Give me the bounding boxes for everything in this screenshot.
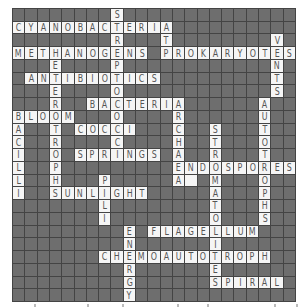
answer-cell[interactable]: E	[50, 85, 61, 97]
answer-cell[interactable]: I	[210, 238, 221, 250]
answer-cell[interactable]: I	[234, 277, 245, 289]
answer-cell[interactable]: S	[210, 277, 221, 289]
answer-cell[interactable]: E	[198, 226, 209, 238]
answer-cell[interactable]: A	[87, 22, 98, 34]
answer-cell[interactable]: O	[62, 22, 73, 34]
answer-cell[interactable]: N	[50, 22, 61, 34]
answer-cell[interactable]: C	[99, 124, 110, 136]
answer-cell[interactable]: R	[173, 111, 184, 123]
answer-cell[interactable]: I	[161, 98, 172, 110]
answer-cell[interactable]: O	[87, 124, 98, 136]
answer-cell[interactable]: I	[148, 22, 159, 34]
answer-cell[interactable]: L	[161, 226, 172, 238]
answer-cell[interactable]: N	[271, 60, 282, 72]
answer-cell[interactable]: T	[210, 136, 221, 148]
answer-cell[interactable]: B	[75, 22, 86, 34]
answer-cell[interactable]: C	[173, 124, 184, 136]
answer-cell[interactable]: U	[259, 111, 270, 123]
answer-cell[interactable]: C	[111, 136, 122, 148]
answer-cell[interactable]: I	[87, 73, 98, 85]
answer-cell[interactable]: P	[247, 251, 258, 263]
answer-cell[interactable]: E	[271, 162, 282, 174]
answer-cell[interactable]: R	[136, 22, 147, 34]
answer-cell[interactable]: E	[124, 251, 135, 263]
answer-cell[interactable]: I	[99, 213, 110, 225]
answer-cell[interactable]: I	[124, 73, 135, 85]
answer-cell[interactable]: O	[210, 162, 221, 174]
answer-cell[interactable]: A	[210, 47, 221, 59]
answer-cell[interactable]: S	[75, 149, 86, 161]
answer-cell[interactable]: P	[99, 175, 110, 187]
answer-cell[interactable]: O	[247, 47, 258, 59]
answer-cell[interactable]: T	[271, 73, 282, 85]
answer-cell[interactable]: E	[136, 98, 147, 110]
answer-cell[interactable]: A	[173, 98, 184, 110]
answer-cell[interactable]: A	[38, 22, 49, 34]
answer-cell[interactable]: O	[87, 47, 98, 59]
answer-cell[interactable]: E	[210, 264, 221, 276]
answer-cell[interactable]: G	[99, 47, 110, 59]
answer-cell[interactable]: M	[247, 226, 258, 238]
answer-cell[interactable]: L	[13, 162, 24, 174]
answer-cell[interactable]: H	[124, 187, 135, 199]
answer-cell[interactable]: P	[259, 187, 270, 199]
answer-cell[interactable]: T	[111, 73, 122, 85]
answer-cell[interactable]: B	[13, 111, 24, 123]
answer-cell[interactable]: L	[13, 175, 24, 187]
answer-cell[interactable]: L	[25, 111, 36, 123]
answer-cell[interactable]: T	[111, 22, 122, 34]
answer-cell[interactable]: E	[124, 226, 135, 238]
answer-cell[interactable]: T	[50, 73, 61, 85]
answer-cell[interactable]: A	[173, 226, 184, 238]
answer-cell[interactable]: R	[247, 277, 258, 289]
answer-cell[interactable]: D	[198, 162, 209, 174]
answer-cell[interactable]: O	[210, 213, 221, 225]
answer-cell[interactable]: L	[222, 226, 233, 238]
answer-cell[interactable]: O	[99, 73, 110, 85]
answer-cell[interactable]: N	[75, 47, 86, 59]
answer-cell[interactable]: N	[124, 149, 135, 161]
answer-cell[interactable]: R	[210, 149, 221, 161]
answer-cell[interactable]: S	[148, 149, 159, 161]
answer-cell[interactable]: C	[99, 251, 110, 263]
answer-cell[interactable]: R	[148, 98, 159, 110]
answer-cell[interactable]: T	[124, 98, 135, 110]
answer-cell[interactable]: H	[259, 251, 270, 263]
answer-cell[interactable]: T	[259, 124, 270, 136]
answer-cell[interactable]: C	[136, 73, 147, 85]
answer-cell[interactable]: G	[124, 277, 135, 289]
answer-cell[interactable]: M	[13, 47, 24, 59]
answer-cell[interactable]: A	[25, 73, 36, 85]
answer-cell[interactable]: E	[173, 162, 184, 174]
answer-cell[interactable]: S	[136, 47, 147, 59]
answer-cell[interactable]: H	[111, 251, 122, 263]
answer-cell[interactable]: I	[99, 187, 110, 199]
answer-cell[interactable]: C	[111, 98, 122, 110]
answer-cell[interactable]: T	[210, 251, 221, 263]
answer-cell[interactable]: E	[271, 47, 282, 59]
answer-cell[interactable]: T	[259, 149, 270, 161]
answer-cell[interactable]: R	[50, 136, 61, 148]
answer-cell[interactable]: T	[136, 187, 147, 199]
answer-cell[interactable]: F	[148, 226, 159, 238]
answer-cell[interactable]: E	[50, 60, 61, 72]
answer-cell[interactable]: E	[25, 47, 36, 59]
answer-cell[interactable]: C	[13, 136, 24, 148]
answer-cell[interactable]: R	[259, 162, 270, 174]
answer-cell[interactable]: O	[111, 111, 122, 123]
answer-cell[interactable]: T	[185, 251, 196, 263]
answer-cell[interactable]: R	[222, 47, 233, 59]
answer-cell[interactable]: S	[148, 73, 159, 85]
answer-cell[interactable]: O	[259, 175, 270, 187]
answer-cell[interactable]: O	[185, 47, 196, 59]
answer-cell[interactable]: P	[234, 162, 245, 174]
answer-cell[interactable]: C	[75, 124, 86, 136]
answer-cell[interactable]: I	[13, 187, 24, 199]
answer-cell[interactable]: R	[173, 47, 184, 59]
answer-cell[interactable]: T	[161, 34, 172, 46]
answer-cell[interactable]: M	[62, 111, 73, 123]
answer-cell[interactable]: R	[99, 149, 110, 161]
answer-cell[interactable]: P	[87, 149, 98, 161]
answer-cell[interactable]: P	[111, 60, 122, 72]
answer-cell[interactable]: A	[161, 22, 172, 34]
